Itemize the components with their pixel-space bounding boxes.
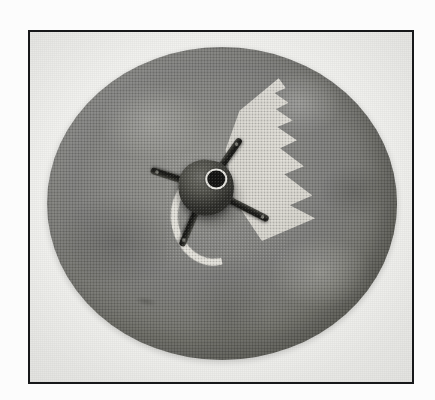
center-bore-label: Central bore <box>0 0 1 1</box>
figure-caption: Photographic plate of a circular frictio… <box>0 0 1 1</box>
hub-label: Four-armed spider hub <box>0 0 1 1</box>
sawtooth-wedge-label: Serrated wedge-shaped aperture <box>0 0 1 1</box>
photo-field <box>30 32 412 382</box>
friction-disc-assembly <box>47 47 397 360</box>
crescent-slot-label: Light crescent arc slot <box>0 0 1 1</box>
halftone-screen-light <box>47 47 397 360</box>
subject-label: Circular friction disc with spider hub <box>0 0 1 1</box>
photo-plate-frame <box>28 30 414 384</box>
figure-root: Photographic plate of a circular frictio… <box>0 0 435 400</box>
